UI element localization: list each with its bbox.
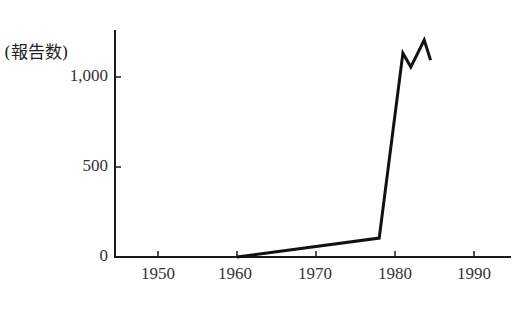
- plot-area: [0, 0, 528, 310]
- data-line: [237, 40, 431, 257]
- line-chart: (報告数) 1,000 500 0 1950 1960 1970 1980 19…: [0, 0, 528, 310]
